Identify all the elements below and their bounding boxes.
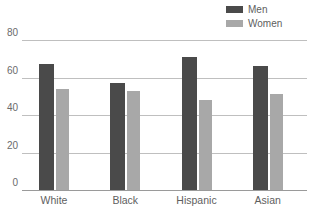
x-axis-label-white: White: [41, 194, 68, 206]
y-axis-tick-label: 20: [0, 141, 18, 151]
bar-white-men: [39, 64, 54, 190]
y-axis-tick-label: 40: [0, 103, 18, 113]
x-axis-labels: WhiteBlackHispanicAsian: [22, 194, 307, 212]
bar-hispanic-men: [182, 57, 197, 190]
legend-item-men: Men: [226, 4, 282, 15]
legend-label-men: Men: [248, 4, 267, 15]
y-axis-tick-label: 60: [0, 66, 18, 76]
legend-swatch-women: [226, 20, 243, 27]
bar-chart: Men Women 020406080 WhiteBlackHispanicAs…: [0, 0, 310, 214]
bar-white-women: [56, 89, 69, 190]
bar-asian-women: [270, 94, 283, 190]
y-axis-tick-label: 80: [0, 28, 18, 38]
x-axis-label-black: Black: [112, 194, 138, 206]
bar-black-men: [110, 83, 125, 190]
bar-hispanic-women: [199, 100, 212, 190]
x-axis-label-asian: Asian: [255, 194, 281, 206]
bar-asian-men: [253, 66, 268, 190]
y-axis-tick-label: 0: [0, 178, 18, 188]
bars-layer: [22, 40, 307, 190]
gridline-0: [22, 190, 307, 191]
bar-black-women: [127, 91, 140, 190]
legend-label-women: Women: [248, 18, 282, 29]
x-axis-label-hispanic: Hispanic: [176, 194, 216, 206]
legend-item-women: Women: [226, 18, 282, 29]
chart-legend: Men Women: [226, 4, 282, 29]
legend-swatch-men: [226, 6, 243, 13]
